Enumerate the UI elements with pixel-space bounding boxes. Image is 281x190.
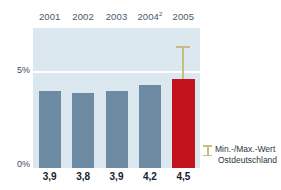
bar-series bbox=[33, 28, 200, 168]
year-label-2001: 2001 bbox=[33, 9, 66, 25]
error-bar-2005 bbox=[176, 46, 190, 79]
plot-area bbox=[33, 28, 200, 168]
y-tick-label-5-percent: 5% bbox=[17, 65, 30, 75]
year-footnote-marker: 2 bbox=[159, 11, 162, 17]
bar-slot-2005 bbox=[167, 28, 200, 168]
value-label-2004: 4,2 bbox=[133, 170, 166, 186]
year-label-text: 2004 bbox=[137, 11, 159, 22]
bar-2004[interactable] bbox=[139, 85, 161, 168]
legend: Min.-/Max.-Wert Ostdeutschland bbox=[203, 144, 281, 166]
x-axis-year-labels: 2001 2002 2003 20042 2005 bbox=[33, 9, 200, 25]
bar-2005[interactable] bbox=[172, 79, 195, 168]
bar-slot-2002 bbox=[66, 28, 99, 168]
year-label-text: 2002 bbox=[72, 11, 94, 22]
bar-slot-2004 bbox=[133, 28, 166, 168]
value-label-2002: 3,8 bbox=[66, 170, 99, 186]
bar-slot-2003 bbox=[100, 28, 133, 168]
legend-label-line2: Ostdeutschland bbox=[215, 155, 277, 166]
error-bar-top-cap bbox=[176, 46, 190, 48]
value-label-2003: 3,9 bbox=[100, 170, 133, 186]
legend-item-minmax: Min.-/Max.-Wert Ostdeutschland bbox=[203, 144, 281, 166]
error-bar-stem bbox=[182, 46, 184, 79]
legend-label: Min.-/Max.-Wert Ostdeutschland bbox=[212, 144, 277, 166]
year-label-2004: 20042 bbox=[133, 9, 166, 25]
year-label-2002: 2002 bbox=[66, 9, 99, 25]
year-label-text: 2001 bbox=[39, 11, 61, 22]
value-label-2005: 4,5 bbox=[167, 170, 200, 186]
bar-slot-2001 bbox=[33, 28, 66, 168]
y-axis: 5% 0% bbox=[0, 28, 30, 168]
bar-2001[interactable] bbox=[39, 91, 61, 168]
chart-container: 2001 2002 2003 20042 2005 5% 0% bbox=[0, 0, 281, 190]
year-label-2003: 2003 bbox=[100, 9, 133, 25]
bar-value-labels: 3,9 3,8 3,9 4,2 4,5 bbox=[33, 170, 200, 186]
y-tick-label-0-percent: 0% bbox=[17, 159, 30, 169]
legend-label-line1: Min.-/Max.-Wert bbox=[215, 144, 275, 154]
year-label-text: 2003 bbox=[106, 11, 128, 22]
error-bar-icon-top-cap bbox=[203, 145, 212, 147]
value-label-2001: 3,9 bbox=[33, 170, 66, 186]
year-label-text: 2005 bbox=[173, 11, 195, 22]
year-label-2005: 2005 bbox=[167, 9, 200, 25]
error-bar-icon-bottom-cap bbox=[203, 155, 212, 157]
error-bar-icon bbox=[203, 145, 212, 156]
bar-2003[interactable] bbox=[106, 91, 128, 168]
bar-2002[interactable] bbox=[72, 93, 94, 168]
